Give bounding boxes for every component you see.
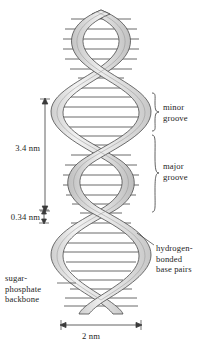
pitch-dimension-line: [40, 98, 50, 212]
base-pair-rungs: [63, 19, 139, 306]
dna-double-helix-figure: minor groove major groove hydrogen- bond…: [0, 0, 211, 351]
width-dimension-line: [60, 320, 142, 330]
major-groove-brace: [152, 135, 159, 212]
minor-groove-label: minor groove: [163, 102, 188, 123]
helix-pitch-measurement-label: 3.4 nm: [8, 143, 40, 154]
hydrogen-bonded-base-pairs-label: hydrogen- bonded base pairs: [156, 243, 193, 275]
helix-width-measurement-label: 2 nm: [82, 331, 100, 342]
major-groove-label: major groove: [163, 161, 188, 182]
base-rise-measurement-label: 0.34 nm: [2, 212, 40, 223]
sugar-phosphate-backbone-label: sugar- phosphate backbone: [5, 273, 61, 305]
minor-groove-brace: [152, 93, 159, 131]
